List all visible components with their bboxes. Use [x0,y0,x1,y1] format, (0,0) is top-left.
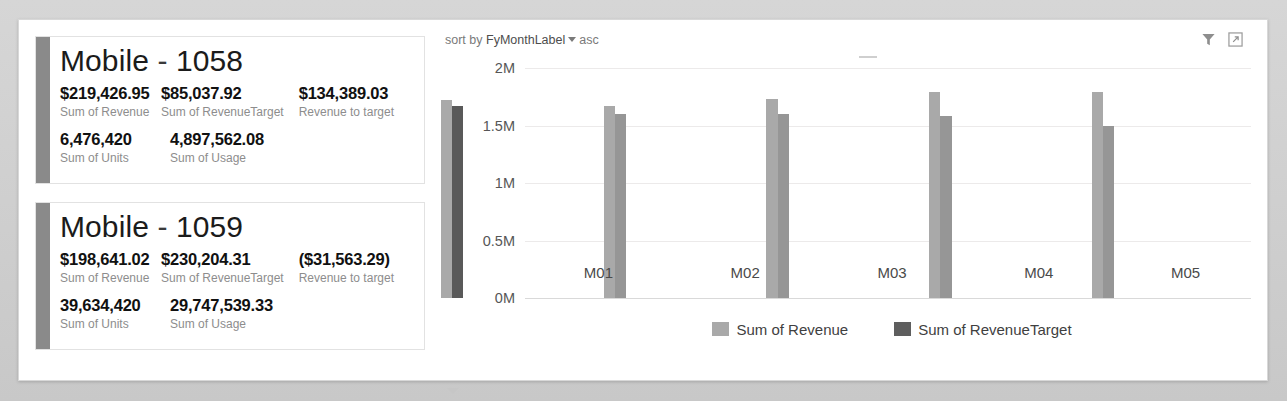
x-axis-tick-label: M04 [1024,264,1053,281]
visual-collapse-dash [859,56,877,58]
card-title-id: 1059 [176,210,243,243]
metric-value: $134,389.03 [299,83,418,104]
card-title-separator: - [157,210,167,243]
metric-revenue-to-target[interactable]: $134,389.03 Revenue to target [299,83,418,120]
focus-mode-icon[interactable] [1228,32,1243,47]
card-title: Mobile - 1058 [60,41,418,81]
legend-label: Sum of Revenue [736,321,848,338]
kpi-card[interactable]: Mobile - 1059 $198,641.02 Sum of Revenue… [35,202,425,350]
report-panel: Mobile - 1058 $219,426.95 Sum of Revenue… [18,19,1268,381]
bar-chart-visual[interactable]: sort by FyMonthLabelasc (Millions) 0M0.5… [437,30,1259,374]
metric-value: $219,426.95 [60,83,161,104]
metric-value: 39,634,420 [60,295,170,316]
chart-legend[interactable]: Sum of Revenue Sum of RevenueTarget [525,318,1259,340]
metric-label: Revenue to target [299,270,418,286]
metric-revenue-to-target[interactable]: ($31,563.29) Revenue to target [299,249,418,286]
legend-label: Sum of RevenueTarget [918,321,1071,338]
bar-revenue[interactable] [441,100,452,298]
metric-label: Sum of Units [60,150,170,166]
bar-revenue-target[interactable] [452,106,463,298]
visual-header-icons[interactable] [1201,32,1243,47]
sort-field-button[interactable]: FyMonthLabel [486,33,565,47]
metric-value: ($31,563.29) [299,249,418,270]
sort-by-label: sort by [445,33,483,47]
metric-label: Sum of RevenueTarget [161,270,299,286]
metric-label: Sum of Revenue [60,270,161,286]
legend-swatch-icon [712,322,729,336]
metric-label: Sum of Revenue [60,104,161,120]
metric-usage[interactable]: 4,897,562.08 Sum of Usage [170,129,320,166]
scroll-down-chevron-icon[interactable] [447,388,459,394]
card-metrics: $219,426.95 Sum of Revenue $85,037.92 Su… [60,83,418,166]
metric-revenue-target[interactable]: $230,204.31 Sum of RevenueTarget [161,249,299,286]
metric-value: $198,641.02 [60,249,161,270]
chevron-down-icon[interactable] [568,37,576,42]
card-metrics: $198,641.02 Sum of Revenue $230,204.31 S… [60,249,418,332]
metric-revenue-target[interactable]: $85,037.92 Sum of RevenueTarget [161,83,299,120]
legend-swatch-icon [894,322,911,336]
filter-funnel-icon[interactable] [1201,32,1216,47]
cards-container[interactable]: Mobile - 1058 $219,426.95 Sum of Revenue… [35,36,435,366]
x-axis-tick-label: M01 [584,264,613,281]
x-axis-tick-label: M03 [877,264,906,281]
legend-item-revenue[interactable]: Sum of Revenue [712,321,848,338]
metric-value: 29,747,539.33 [170,295,320,316]
metric-label: Sum of RevenueTarget [161,104,299,120]
card-title-name: Mobile [60,210,149,243]
metric-label: Sum of Usage [170,150,320,166]
x-axis-ticks: M01M02M03M04M05 [525,262,1259,288]
metric-value: 4,897,562.08 [170,129,320,150]
metric-usage[interactable]: 29,747,539.33 Sum of Usage [170,295,320,332]
x-axis-tick-label: M02 [731,264,760,281]
card-accent-bar [36,37,50,183]
metric-value: $85,037.92 [161,83,299,104]
metric-value: $230,204.31 [161,249,299,270]
report-page: Mobile - 1058 $219,426.95 Sum of Revenue… [0,0,1287,401]
metric-units[interactable]: 6,476,420 Sum of Units [60,129,170,166]
card-title-id: 1058 [176,44,243,77]
sort-direction-button[interactable]: asc [579,33,598,47]
x-axis-tick-label: M05 [1171,264,1200,281]
metric-value: 6,476,420 [60,129,170,150]
gridline [525,298,1251,299]
metric-label: Sum of Units [60,316,170,332]
kpi-card[interactable]: Mobile - 1058 $219,426.95 Sum of Revenue… [35,36,425,184]
metric-label: Revenue to target [299,104,418,120]
card-title-separator: - [157,44,167,77]
sort-control[interactable]: sort by FyMonthLabelasc [445,30,599,50]
metric-revenue[interactable]: $219,426.95 Sum of Revenue [60,83,161,120]
card-title-name: Mobile [60,44,149,77]
legend-item-revenue-target[interactable]: Sum of RevenueTarget [894,321,1071,338]
metric-revenue[interactable]: $198,641.02 Sum of Revenue [60,249,161,286]
metric-units[interactable]: 39,634,420 Sum of Units [60,295,170,332]
card-accent-bar [36,203,50,349]
card-title: Mobile - 1059 [60,207,418,247]
metric-label: Sum of Usage [170,316,320,332]
